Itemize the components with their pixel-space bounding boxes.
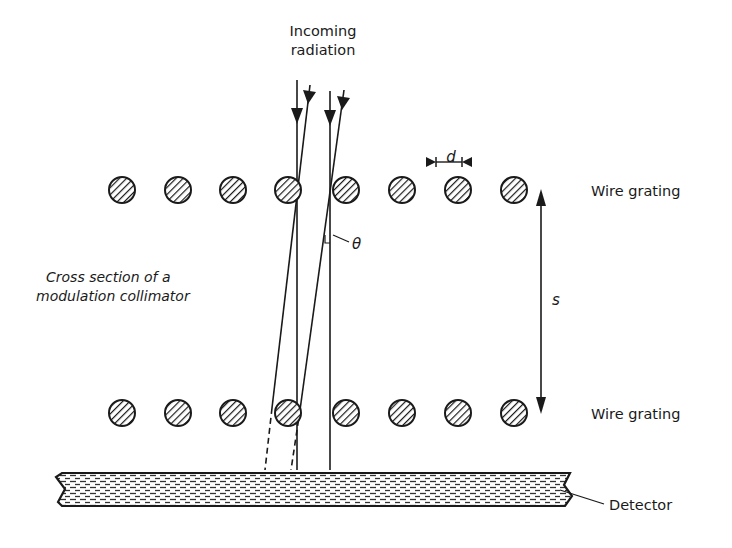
tilted-ray-1 <box>272 85 310 408</box>
wire <box>220 400 246 426</box>
incoming-label-line2: radiation <box>291 42 356 58</box>
wire <box>109 400 135 426</box>
arrow-down-icon <box>536 397 546 414</box>
wire <box>165 177 191 203</box>
collimator-diagram: Incoming radiation θ <box>0 0 732 548</box>
wire <box>333 177 359 203</box>
angle-symbol: θ <box>352 235 361 253</box>
spacing-dimension: d <box>426 148 472 167</box>
wire <box>109 177 135 203</box>
incoming-label-line1: Incoming <box>290 23 357 39</box>
ray-arrowhead-icon <box>291 108 303 124</box>
separation-dimension: s <box>536 189 560 414</box>
caption-line1: Cross section of a <box>46 269 171 285</box>
wire <box>275 177 301 203</box>
diagram-canvas: Incoming radiation θ <box>0 0 732 548</box>
ray-arrowhead-icon <box>337 96 350 110</box>
detector-slab <box>56 473 572 506</box>
ray-arrowhead-icon <box>303 90 316 104</box>
arrowhead-icon <box>462 157 472 167</box>
wire <box>275 400 301 426</box>
cross-section-caption: Cross section of a modulation collimator <box>36 269 191 304</box>
angle-leader <box>333 235 349 242</box>
detector: Detector <box>56 473 672 513</box>
wire <box>165 400 191 426</box>
arrow-up-icon <box>536 189 546 206</box>
wire <box>445 400 471 426</box>
incoming-radiation-label: Incoming radiation <box>290 23 357 58</box>
wire-grating-top-label: Wire grating <box>591 183 680 199</box>
tilted-ray-2 <box>300 90 344 410</box>
spacing-symbol: d <box>446 148 456 166</box>
wire <box>501 400 527 426</box>
wire-grating-bottom-label: Wire grating <box>591 406 680 422</box>
wire <box>501 177 527 203</box>
wire <box>389 400 415 426</box>
wire <box>220 177 246 203</box>
ray-arrowhead-icon <box>324 110 336 126</box>
detector-label: Detector <box>609 497 672 513</box>
top-wire-grating <box>109 177 527 203</box>
caption-line2: modulation collimator <box>36 288 191 304</box>
separation-symbol: s <box>552 291 560 309</box>
dashed-ray-1 <box>265 408 272 470</box>
wire <box>445 177 471 203</box>
arrowhead-icon <box>426 157 436 167</box>
bottom-wire-grating <box>109 400 527 426</box>
wire <box>333 400 359 426</box>
wire <box>389 177 415 203</box>
